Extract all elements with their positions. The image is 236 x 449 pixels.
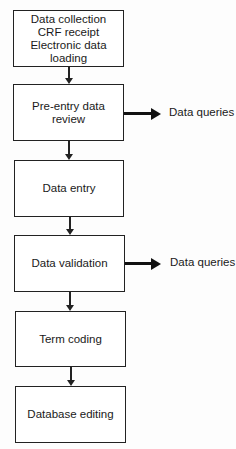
step-label: loading xyxy=(30,52,106,65)
step-data-entry: Data entry xyxy=(14,160,124,217)
step-label: CRF receipt xyxy=(30,26,106,39)
step-database-editing: Database editing xyxy=(15,386,126,443)
step-data-validation: Data validation xyxy=(14,235,125,292)
step-label: Electronic data xyxy=(30,39,106,52)
output-label: Data queries xyxy=(170,256,235,268)
step-label: Data collection xyxy=(30,13,106,26)
step-pre-entry-review: Pre-entry data review xyxy=(13,84,124,141)
connector-line xyxy=(68,141,70,154)
step-label: review xyxy=(32,113,105,126)
output-label: Data queries xyxy=(169,106,234,118)
arrow-right-icon xyxy=(151,108,161,120)
step-label: Pre-entry data xyxy=(32,100,105,113)
connector-line xyxy=(69,292,71,305)
connector-line xyxy=(69,217,71,229)
step-label: Database editing xyxy=(27,408,113,421)
step-label: Data entry xyxy=(42,182,95,195)
connector-line xyxy=(70,367,72,380)
arrow-right-icon xyxy=(151,258,161,270)
step-term-coding: Term coding xyxy=(15,311,126,367)
output-connector xyxy=(125,262,153,265)
step-label: Term coding xyxy=(39,333,102,346)
step-label: Data validation xyxy=(31,257,107,270)
output-connector xyxy=(124,112,153,115)
connector-line xyxy=(68,67,70,78)
step-data-collection: Data collection CRF receipt Electronic d… xyxy=(13,10,124,67)
